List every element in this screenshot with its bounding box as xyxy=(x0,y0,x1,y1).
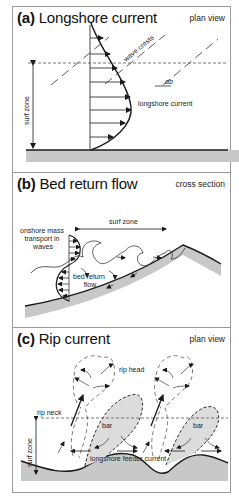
longshore-current-diagram: wave crests αb longshore current surf zo… xyxy=(13,7,232,174)
surf-zone-label: surf zone xyxy=(23,96,30,125)
rip-neck-arrow-2 xyxy=(151,395,163,426)
onshore-line-2: transport in xyxy=(25,235,60,243)
seabed-shading xyxy=(25,245,221,318)
bed-return-line-1: bed return xyxy=(73,273,105,280)
onshore-line-3: waves xyxy=(32,243,53,250)
wave-crests-label: wave crests xyxy=(121,33,155,63)
velocity-profile-curve xyxy=(91,23,131,150)
rip-neck-arrow-1 xyxy=(71,395,83,426)
onshore-line-1: onshore mass xyxy=(20,227,64,234)
bed-return-flow-diagram: surf zone onshore m xyxy=(13,173,232,329)
rip-head-label: rip head xyxy=(119,366,144,374)
wave-crests xyxy=(51,35,218,85)
onshore-mass-transport-label: onshore mass transport in waves xyxy=(20,227,66,250)
rip-neck-label: rip neck xyxy=(37,409,62,417)
return-arrows xyxy=(58,272,69,296)
bed-return-line-2: flow xyxy=(84,281,97,288)
surf-zone-label: surf zone xyxy=(109,218,138,225)
surf-zone-label: surf zone xyxy=(26,438,33,467)
shore-shading xyxy=(26,150,239,162)
panel-bed-return-flow: (b) Bed return flow cross section surf z… xyxy=(12,172,231,328)
water-surface xyxy=(31,241,185,273)
feeder-current-label: longshore feeder current xyxy=(90,455,166,463)
angle-label: αb xyxy=(165,78,173,85)
velocity-profile-curve xyxy=(56,235,80,301)
panel-longshore-current: (a) Longshore current plan view wave cre… xyxy=(12,6,231,173)
bar-label-2: bar xyxy=(193,422,204,429)
longshore-current-label: longshore current xyxy=(138,100,193,108)
panel-rip-current: (c) Rip current plan view xyxy=(12,327,231,493)
bar-label-1: bar xyxy=(102,422,113,429)
rip-current-diagram: surf zone rip head rip neck bar bar long… xyxy=(13,328,232,494)
